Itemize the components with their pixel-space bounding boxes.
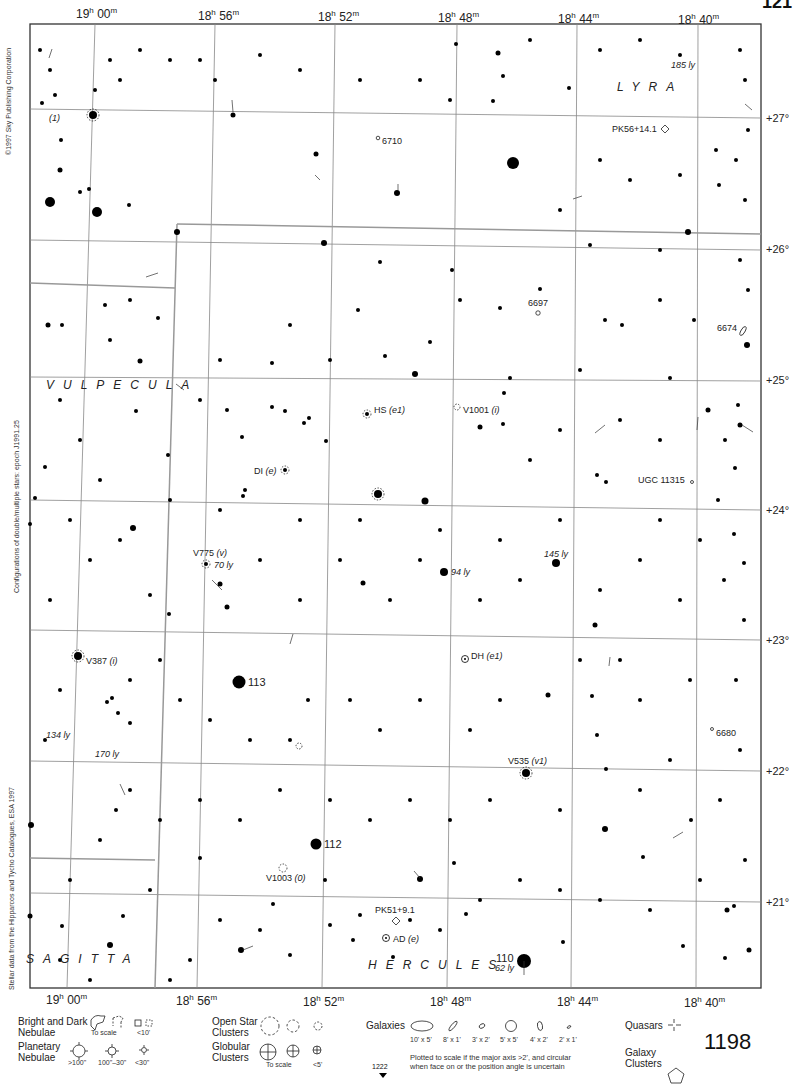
legend-galaxy-note: Plotted to scale if the major axis >2', … — [410, 1053, 571, 1062]
legend-galaxy-size: 4' x 2' — [530, 1036, 548, 1043]
ra-label-bottom: 18h 48m — [430, 994, 471, 1009]
object-label-ad[interactable]: AD (e) — [393, 934, 419, 944]
object-label-v1001[interactable]: V1001 (i) — [463, 405, 500, 415]
object-label-112[interactable]: 112 — [324, 838, 342, 850]
constellation-sagitta: SAGITTA — [26, 952, 139, 966]
galaxy-6697 — [536, 311, 540, 315]
legend-galaxy-size: 8' x 1' — [443, 1036, 461, 1043]
legend-galaxy-size: 10' x 5' — [410, 1036, 432, 1043]
distance-label: 134 ly — [46, 730, 70, 740]
legend-planetary-size: >100" — [68, 1059, 86, 1066]
data-source-note: Stellar data from the Hipparcos and Tych… — [8, 787, 15, 990]
ra-label-bottom: 18h 44m — [557, 994, 598, 1009]
ra-label-top: 18h 52m — [318, 9, 359, 24]
distance-label: 145 ly — [544, 549, 568, 559]
object-label-113[interactable]: 113 — [248, 676, 266, 688]
galaxy-6680 — [711, 728, 714, 731]
object-label-6674[interactable]: 6674 — [717, 323, 737, 333]
object-label-hs[interactable]: HS (e1) — [374, 405, 405, 415]
object-label-6710[interactable]: 6710 — [382, 136, 402, 146]
object-label-dh[interactable]: DH (e1) — [471, 651, 503, 661]
legend-galaxies-title: Galaxies — [366, 1020, 405, 1031]
object-label-6697[interactable]: 6697 — [528, 298, 548, 308]
ra-label-top: 18h 48m — [438, 10, 479, 25]
constellation-boundaries — [30, 224, 761, 988]
dec-label: +25° — [766, 374, 789, 386]
ra-label-bottom: 18h 52m — [303, 994, 344, 1009]
epoch-note: Configurations of double/multiple stars:… — [13, 420, 20, 593]
motion-ticks — [49, 49, 753, 975]
galaxy-6710 — [376, 136, 380, 140]
galaxy-6674 — [739, 326, 747, 337]
planetary-nebula-pk56 — [661, 125, 669, 133]
legend-nebulae-small: <10' — [137, 1029, 150, 1036]
dec-label: +26° — [766, 243, 789, 255]
copyright-text: ©1997 Sky Publishing Corporation — [5, 48, 12, 155]
legend-open-clusters-title: Open Star Clusters — [212, 1016, 262, 1038]
object-label-pk56[interactable]: PK56+14.1 — [612, 124, 657, 134]
legend-galaxy-size: 2' x 1' — [559, 1036, 577, 1043]
ra-label-top: 18h 56m — [198, 8, 239, 23]
legend-galaxy-size: 3' x 2' — [472, 1036, 490, 1043]
planetary-nebula-pk51 — [392, 917, 400, 925]
ra-label-bottom: 19h 00m — [46, 992, 87, 1007]
object-label-pk51[interactable]: PK51+9.1 — [375, 905, 415, 915]
next-page-arrow-icon[interactable] — [379, 1073, 387, 1078]
constellation-vulpecula: VULPECULA — [46, 378, 198, 392]
dec-label: +27° — [766, 112, 789, 124]
distance-label: 62 ly — [495, 963, 514, 973]
legend-planetary-size: 100"–30" — [98, 1059, 126, 1066]
object-label-v387[interactable]: V387 (i) — [86, 656, 118, 666]
ra-label-top: 18h 44m — [558, 11, 599, 26]
star-chart — [0, 0, 803, 1084]
object-label-di[interactable]: DI (e) — [254, 466, 277, 476]
legend-globular-small: <5' — [313, 1061, 322, 1068]
ra-label-top: 18h 40m — [678, 12, 719, 27]
ra-label-top: 19h 00m — [76, 6, 117, 21]
stars — [28, 38, 752, 982]
object-label-double[interactable]: (1) — [49, 113, 60, 123]
galaxy-ugc11315 — [691, 481, 694, 484]
adjacent-page-top[interactable]: 121 — [762, 0, 792, 13]
legend-nebulae-title: Bright and Dark Nebulae — [18, 1016, 90, 1038]
legend-galaxy-note: when face on or the position angle is un… — [410, 1062, 565, 1071]
constellation-hercules: HERCULES — [368, 958, 505, 972]
ra-grid — [67, 24, 698, 988]
adjacent-page-bottom[interactable]: 1222 — [372, 1063, 388, 1070]
distance-label: 170 ly — [95, 749, 119, 759]
chart-border — [30, 24, 761, 988]
variable-star-cores — [204, 412, 369, 566]
dec-label: +22° — [766, 765, 789, 777]
ra-label-bottom: 18h 40m — [684, 995, 725, 1010]
page-number: 1198 — [704, 1029, 751, 1055]
object-label-6680[interactable]: 6680 — [716, 728, 736, 738]
legend-globular-title: Globular Clusters — [212, 1041, 262, 1063]
variable-star-markers — [72, 109, 532, 872]
legend-planetary-size: <30" — [135, 1059, 149, 1066]
dec-label: +24° — [766, 504, 789, 516]
legend-galaxy-clusters-title: Galaxy Clusters — [625, 1047, 667, 1069]
legend-globular-scale: To scale — [266, 1061, 292, 1068]
ra-label-bottom: 18h 56m — [176, 993, 217, 1008]
distance-label: 185 ly — [671, 60, 695, 70]
object-label-v775[interactable]: V775 (v) — [193, 548, 227, 558]
legend-quasars-title: Quasars — [625, 1020, 663, 1031]
distance-label: 94 ly — [451, 567, 470, 577]
constellation-lyra: LYRA — [617, 80, 683, 94]
legend-galaxy-size: 5' x 5' — [500, 1036, 518, 1043]
dec-label: +21° — [766, 896, 789, 908]
dec-label: +23° — [766, 634, 789, 646]
deep-sky-symbols — [376, 125, 747, 925]
object-label-v535[interactable]: V535 (v1) — [508, 756, 547, 766]
legend-nebulae-scale: To scale — [91, 1029, 117, 1036]
object-label-ugc11315[interactable]: UGC 11315 — [638, 475, 685, 485]
object-label-v1003[interactable]: V1003 (0) — [266, 873, 306, 883]
distance-label: 70 ly — [214, 560, 233, 570]
